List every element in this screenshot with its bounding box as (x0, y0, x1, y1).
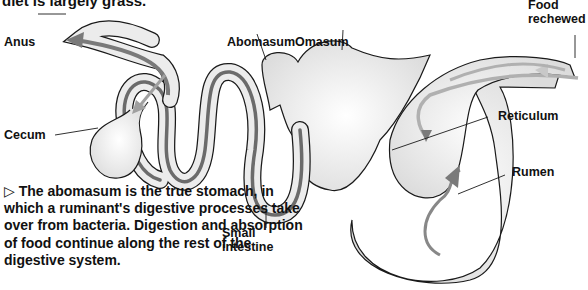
label-food-rechewed-2: rechewed (528, 12, 586, 26)
caption-marker-icon: ▷ (4, 183, 15, 199)
label-abomasum: Abomasum (227, 35, 295, 49)
label-reticulum: Reticulum (498, 109, 558, 123)
caption: ▷ The abomasum is the true stomach, in w… (4, 183, 304, 269)
label-cecum: Cecum (4, 128, 46, 142)
caption-text: The abomasum is the true stomach, in whi… (4, 183, 303, 268)
label-food-rechewed-1: Food (528, 0, 559, 12)
label-rumen: Rumen (512, 165, 554, 179)
label-anus: Anus (4, 35, 35, 49)
label-omasum: Omasum (295, 35, 349, 49)
